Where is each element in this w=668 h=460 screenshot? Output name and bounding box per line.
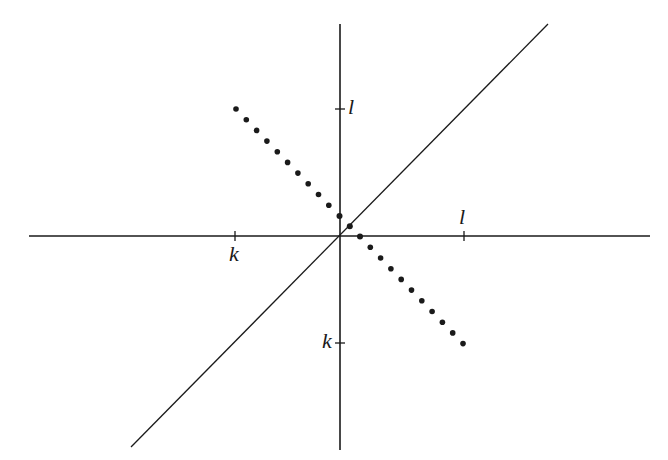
- y-tick-k-label: k: [322, 330, 332, 352]
- x-tick-k-label: k: [229, 243, 239, 265]
- x-tick-l-label: l: [459, 206, 465, 228]
- diagonal-intersection-point: [347, 223, 353, 229]
- y-axis-intercept-point: [337, 213, 343, 219]
- y-tick-l-label: l: [348, 96, 354, 118]
- coordinate-diagram: [0, 0, 668, 460]
- x-axis-intercept-point: [357, 234, 363, 240]
